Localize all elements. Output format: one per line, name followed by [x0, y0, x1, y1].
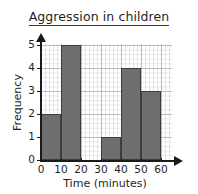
- bar: [121, 68, 141, 160]
- x-axis-arrow-icon: [174, 156, 183, 166]
- x-axis-label: Time (minutes): [30, 177, 180, 190]
- y-tick: [37, 114, 41, 115]
- x-tick: [101, 158, 102, 162]
- x-tick-label: 20: [72, 163, 90, 175]
- x-tick-label: 30: [92, 163, 110, 175]
- y-tick-label: 4: [22, 61, 35, 73]
- x-tick-label: 60: [152, 163, 170, 175]
- y-tick-label: 3: [22, 84, 35, 96]
- y-tick: [37, 137, 41, 138]
- x-tick: [41, 158, 42, 162]
- y-tick-label: 1: [22, 130, 35, 142]
- y-tick-label: 0: [22, 153, 35, 165]
- x-tick: [121, 158, 122, 162]
- bar: [101, 137, 121, 160]
- y-tick: [37, 45, 41, 46]
- x-tick-label: 50: [132, 163, 150, 175]
- bar: [61, 45, 81, 160]
- y-axis-arrow-icon: [36, 33, 46, 42]
- y-axis-label: Frequency: [11, 48, 24, 158]
- y-tick: [37, 160, 41, 161]
- x-tick: [141, 158, 142, 162]
- y-tick-label: 5: [22, 38, 35, 50]
- chart-title: Aggression in children: [0, 9, 198, 24]
- x-tick: [161, 158, 162, 162]
- chart-title-text: Aggression in children: [29, 9, 170, 26]
- x-tick: [81, 158, 82, 162]
- bar-series: [41, 45, 172, 160]
- x-tick: [61, 158, 62, 162]
- bar: [141, 91, 161, 160]
- chart-figure: Aggression in children 0102030405060 012…: [0, 0, 198, 194]
- y-tick: [37, 91, 41, 92]
- x-tick-label: 40: [112, 163, 130, 175]
- y-tick-label: 2: [22, 107, 35, 119]
- y-axis-line: [40, 40, 42, 161]
- x-tick-label: 10: [52, 163, 70, 175]
- bar: [41, 114, 61, 160]
- y-tick: [37, 68, 41, 69]
